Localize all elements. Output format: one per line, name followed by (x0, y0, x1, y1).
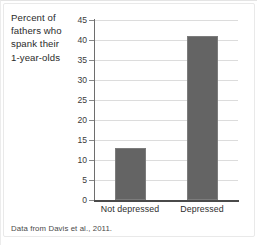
y-tick-label: 5 (67, 175, 87, 185)
bar (115, 148, 146, 200)
y-tick-label: 30 (67, 75, 87, 85)
y-tick-label: 15 (67, 135, 87, 145)
x-category-label: Depressed (166, 204, 238, 214)
x-axis-line (94, 200, 239, 202)
y-tick-mark (89, 20, 94, 21)
y-tick-label: 20 (67, 115, 87, 125)
bar (187, 36, 218, 200)
y-tick-mark (89, 200, 94, 201)
y-tick-mark (89, 80, 94, 81)
y-tick-label: 10 (67, 155, 87, 165)
figure-panel: Percent of fathers who spank their 1-yea… (0, 0, 257, 245)
x-category-label: Not depressed (94, 204, 166, 214)
y-tick-mark (89, 180, 94, 181)
plot-area (94, 20, 238, 200)
y-tick-mark (89, 60, 94, 61)
y-tick-label: 45 (67, 15, 87, 25)
y-tick-mark (89, 100, 94, 101)
y-tick-label: 25 (67, 95, 87, 105)
y-tick-label: 35 (67, 55, 87, 65)
y-tick-mark (89, 140, 94, 141)
y-tick-labels: 051015202530354045 (65, 1, 87, 245)
y-tick-mark (89, 120, 94, 121)
y-tick-mark (89, 40, 94, 41)
gridline (94, 20, 238, 21)
y-axis-line (94, 19, 95, 201)
y-tick-label: 0 (67, 195, 87, 205)
y-tick-label: 40 (67, 35, 87, 45)
y-tick-mark (89, 160, 94, 161)
source-note: Data from Davis et al., 2011. (11, 224, 112, 233)
